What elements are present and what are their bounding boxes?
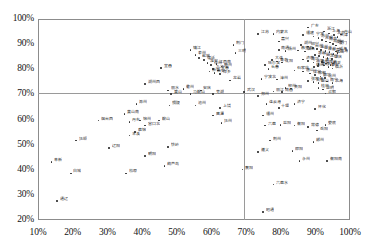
data-point-marker — [198, 57, 200, 59]
data-point-label: 沈阳 — [285, 59, 293, 63]
data-point-marker — [190, 49, 192, 51]
data-point-label: 襄阳 — [245, 166, 253, 170]
data-point-marker — [328, 66, 330, 68]
data-point-marker — [264, 64, 266, 66]
data-point-marker — [262, 211, 264, 213]
data-point-label: 合肥 — [328, 90, 336, 94]
data-point-label: 池州 — [198, 102, 206, 106]
data-point-label: 漳州 — [280, 76, 288, 80]
data-point-label: 马鞍山 — [193, 90, 205, 94]
data-point-marker — [278, 107, 280, 109]
data-point-label: 永州 — [302, 157, 310, 161]
data-point-marker — [257, 151, 259, 153]
x-axis-tick-label: 100% — [333, 227, 367, 237]
data-point-label: 葫芦岛 — [167, 162, 179, 166]
data-point-marker — [268, 68, 270, 70]
data-point-label: 三明 — [238, 49, 246, 53]
data-point-marker — [302, 34, 304, 36]
data-point-label: 衡阳 — [297, 122, 305, 126]
data-point-marker — [313, 81, 315, 83]
data-point-label: 舟山 — [344, 30, 352, 34]
data-point-marker — [257, 33, 259, 35]
y-axis-tick-label: 100% — [2, 13, 34, 23]
data-point-marker — [229, 80, 231, 82]
data-point-label: 抚州 — [224, 119, 232, 123]
data-point-label: 十堰 — [281, 104, 289, 108]
y-axis-tick-label: 20% — [2, 214, 34, 224]
data-point-label: 湖州西 — [148, 80, 160, 84]
data-point-label: 临沂 — [335, 65, 343, 69]
data-point-label: 辽阳 — [112, 144, 120, 148]
data-point-marker — [332, 82, 334, 84]
data-point-label: 郑州 — [261, 92, 269, 96]
data-point-label: 荆州 — [273, 137, 281, 141]
data-point-label: 通辽 — [60, 197, 68, 201]
data-point-marker — [210, 64, 212, 66]
data-point-label: 北海 — [335, 79, 343, 83]
data-point-marker — [144, 83, 146, 85]
data-point-label: 鹰潭 — [216, 112, 224, 116]
data-point-marker — [314, 108, 316, 110]
data-point-label: 武汉 — [247, 88, 255, 92]
data-point-marker — [183, 88, 185, 90]
y-axis-tick-label: 40% — [2, 164, 34, 174]
data-point-label: 铜陵 — [172, 102, 180, 106]
data-point-label: 郴州 — [316, 138, 324, 142]
data-point-label: 连云港 — [269, 100, 281, 104]
data-point-label: 六盘水 — [276, 181, 288, 185]
data-point-marker — [326, 160, 328, 162]
data-point-marker — [167, 90, 169, 92]
data-point-marker — [164, 165, 166, 167]
data-point-marker — [340, 34, 342, 36]
data-point-label: 芜湖 — [216, 90, 224, 94]
data-point-marker — [56, 200, 58, 202]
data-point-label: 朝阳 — [148, 152, 156, 156]
data-point-marker — [243, 91, 245, 93]
data-point-marker — [190, 93, 192, 95]
data-point-marker — [170, 93, 172, 95]
data-point-marker — [278, 41, 280, 43]
data-point-label: 阜新 — [54, 158, 62, 162]
data-point-label: 益阳 — [283, 121, 291, 125]
data-point-label: 常德 — [311, 123, 319, 127]
data-point-label: 上饶 — [223, 104, 231, 108]
data-point-label: 六盘 — [268, 122, 276, 126]
data-point-label: 广东 — [311, 24, 319, 28]
data-point-marker — [70, 173, 72, 175]
data-point-marker — [125, 173, 127, 175]
data-point-marker — [281, 91, 283, 93]
data-point-marker — [335, 51, 337, 53]
data-point-label: 白城 — [73, 169, 81, 173]
data-point-marker — [203, 59, 205, 61]
data-point-marker — [219, 73, 221, 75]
x-axis-tick-label: 70% — [229, 227, 263, 237]
data-point-label: 宜昌 — [164, 64, 172, 68]
data-point-marker — [261, 78, 263, 80]
data-point-label: 南昌 — [285, 88, 293, 92]
data-point-label: 营口北 — [148, 122, 160, 126]
data-point-label: 扬州 — [288, 47, 296, 51]
data-point-label: 怀化 — [318, 105, 326, 109]
data-point-marker — [307, 126, 309, 128]
x-axis-tick-label: 10% — [21, 227, 55, 237]
data-point-marker — [307, 60, 309, 62]
data-point-marker — [321, 39, 323, 41]
data-point-label: 铁岭 — [171, 143, 179, 147]
data-point-marker — [280, 124, 282, 126]
data-point-label: 本溪 — [132, 132, 140, 136]
x-axis-tick-label: 20% — [56, 227, 90, 237]
data-point-marker — [278, 49, 280, 51]
scatter-chart: 20%30%40%50%60%70%80%90%100%10%20%30%40%… — [0, 0, 367, 248]
data-point-label: 福州 — [266, 112, 274, 116]
data-point-marker — [297, 50, 299, 52]
data-point-label: 邵阳 — [295, 147, 303, 151]
y-axis-tick-label: 50% — [2, 139, 34, 149]
data-point-label: 威海 — [339, 48, 347, 52]
x-axis-tick-label: 30% — [90, 227, 124, 237]
data-point-label: 鞍山 — [162, 117, 170, 121]
data-point-label: 济宁 — [297, 100, 305, 104]
data-point-label: 内蒙古 — [276, 30, 288, 34]
data-point-marker — [235, 52, 237, 54]
data-point-label: 江苏 — [261, 30, 269, 34]
data-point-label: 松原 — [129, 169, 137, 173]
